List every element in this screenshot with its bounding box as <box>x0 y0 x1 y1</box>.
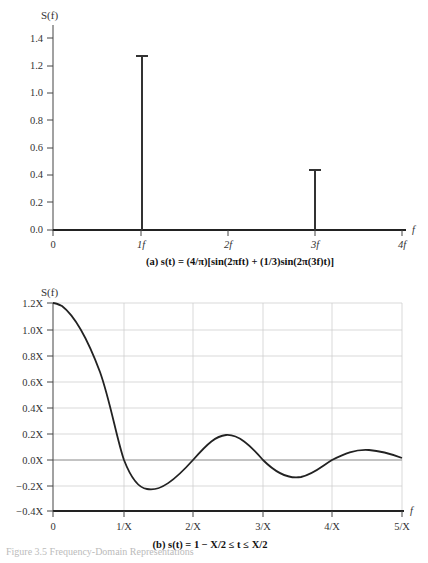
chart-b-x-ticks: 0 1/X 2/X 3/X 4/X 5/X f <box>50 505 415 532</box>
svg-text:0.4X: 0.4X <box>22 403 43 414</box>
svg-text:0.0X: 0.0X <box>22 455 43 466</box>
chart-b-x-label: f <box>410 505 415 516</box>
figure-footer: Figure 3.5 Frequency-Domain Representati… <box>6 546 194 557</box>
chart-b: S(f) 1.2X 1 <box>16 286 415 551</box>
chart-a-x-ticks: 0 1f 2f 3f 4f f <box>50 224 417 250</box>
svg-text:4/X: 4/X <box>324 521 340 532</box>
chart-b-grid <box>53 303 402 511</box>
chart-b-y-label: S(f) <box>41 286 58 299</box>
chart-a-x-label: f <box>412 224 417 235</box>
chart-a: S(f) 1.4 1.2 1.0 0.8 0.6 0.4 0.2 0.0 <box>30 9 417 268</box>
svg-text:0.8: 0.8 <box>30 115 43 126</box>
chart-a-y-ticks: 1.4 1.2 1.0 0.8 0.6 0.4 0.2 0.0 <box>30 33 53 235</box>
chart-a-caption: (a) s(t) = (4/π)[sin(2πft) + (1/3)sin(2π… <box>146 256 334 268</box>
svg-text:0.2X: 0.2X <box>22 429 43 440</box>
chart-b-sinc-curve <box>53 303 402 489</box>
svg-text:1/X: 1/X <box>116 521 132 532</box>
svg-text:1.4: 1.4 <box>30 33 44 44</box>
svg-text:2/X: 2/X <box>185 521 201 532</box>
svg-text:1.2X: 1.2X <box>22 298 43 309</box>
svg-text:5/X: 5/X <box>394 521 410 532</box>
svg-text:1.2: 1.2 <box>30 60 43 71</box>
svg-text:0: 0 <box>50 521 55 532</box>
svg-text:1.0X: 1.0X <box>22 325 43 336</box>
svg-text:1f: 1f <box>137 239 147 250</box>
svg-text:0.4: 0.4 <box>30 169 44 180</box>
svg-text:0.6: 0.6 <box>30 142 43 153</box>
chart-a-stems <box>136 56 321 230</box>
svg-text:2f: 2f <box>224 239 234 250</box>
svg-text:−0.2X: −0.2X <box>16 481 43 492</box>
svg-text:1.0: 1.0 <box>30 87 43 98</box>
figure: S(f) 1.4 1.2 1.0 0.8 0.6 0.4 0.2 0.0 <box>0 0 428 563</box>
svg-text:0.6X: 0.6X <box>22 377 43 388</box>
svg-text:0: 0 <box>50 239 55 250</box>
chart-b-y-ticks: 1.2X 1.0X 0.8X 0.6X 0.4X 0.2X 0.0X −0.2X… <box>16 298 53 517</box>
chart-a-y-label: S(f) <box>41 9 58 22</box>
svg-text:0.8X: 0.8X <box>22 351 43 362</box>
svg-text:3/X: 3/X <box>255 521 271 532</box>
svg-text:0.0: 0.0 <box>30 224 43 235</box>
svg-text:3f: 3f <box>310 239 321 250</box>
svg-text:0.2: 0.2 <box>30 197 43 208</box>
svg-text:4f: 4f <box>398 239 408 250</box>
svg-text:−0.4X: −0.4X <box>16 506 43 517</box>
